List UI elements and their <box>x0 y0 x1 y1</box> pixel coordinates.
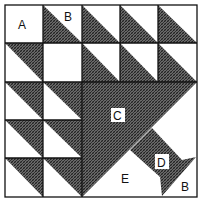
label-d: D <box>157 156 166 170</box>
label-c: C <box>113 109 122 123</box>
quilt-block-diagram: A B C D E B <box>0 0 201 202</box>
label-e: E <box>121 172 129 186</box>
label-a: A <box>18 18 26 32</box>
label-b-bottom: B <box>181 180 189 194</box>
label-b-top: B <box>64 10 72 24</box>
